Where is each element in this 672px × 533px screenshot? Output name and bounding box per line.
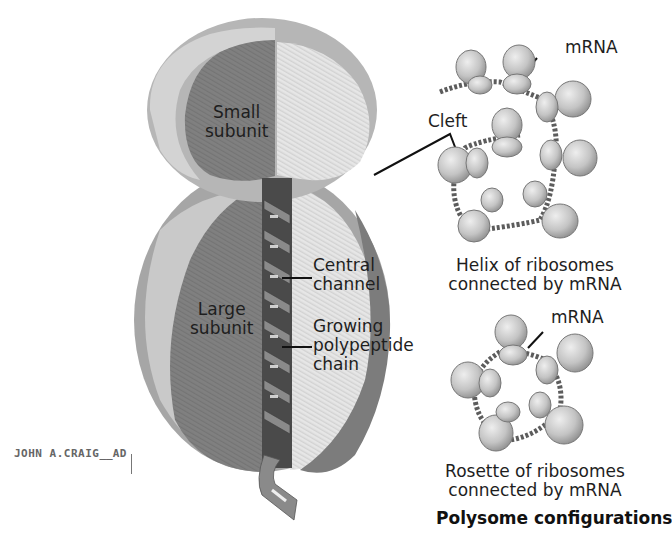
helix-caption-line1: Helix of ribosomes bbox=[435, 256, 635, 275]
rosette-caption-line1: Rosette of ribosomes bbox=[430, 462, 640, 481]
artist-signature: JOHN A.CRAIG__AD bbox=[14, 447, 127, 460]
growing-chain-label-line2: polypeptide bbox=[313, 336, 414, 355]
artist-signature-suffix: AD bbox=[113, 447, 127, 460]
helix-caption: Helix of ribosomes connected by mRNA bbox=[435, 256, 635, 294]
central-channel-label-line2: channel bbox=[313, 275, 380, 294]
rosette-caption: Rosette of ribosomes connected by mRNA bbox=[430, 462, 640, 500]
small-subunit-label-line2: subunit bbox=[205, 122, 268, 141]
helix-caption-line2: connected by mRNA bbox=[435, 275, 635, 294]
signature-flourish bbox=[131, 454, 132, 474]
central-channel-label-line1: Central bbox=[313, 256, 380, 275]
artist-signature-name: JOHN A.CRAIG bbox=[14, 447, 99, 460]
rosette-mrna-label: mRNA bbox=[551, 308, 604, 327]
large-subunit-label-line2: subunit bbox=[190, 319, 253, 338]
rosette-caption-line2: connected by mRNA bbox=[430, 481, 640, 500]
growing-chain-label-line1: Growing bbox=[313, 317, 414, 336]
cleft-label: Cleft bbox=[428, 112, 467, 131]
large-subunit-label-line1: Large bbox=[190, 300, 253, 319]
figure-title: Polysome configurations bbox=[436, 508, 672, 528]
small-subunit-label-line1: Small bbox=[205, 103, 268, 122]
growing-chain-label: Growing polypeptide chain bbox=[313, 317, 414, 374]
central-channel-label: Central channel bbox=[313, 256, 380, 294]
helix-polysome bbox=[438, 45, 597, 242]
rosette-polysome bbox=[451, 315, 593, 451]
helix-mrna-label: mRNA bbox=[565, 38, 618, 57]
large-subunit-label: Large subunit bbox=[190, 300, 253, 338]
small-subunit-label: Small subunit bbox=[205, 103, 268, 141]
growing-chain-label-line3: chain bbox=[313, 355, 414, 374]
